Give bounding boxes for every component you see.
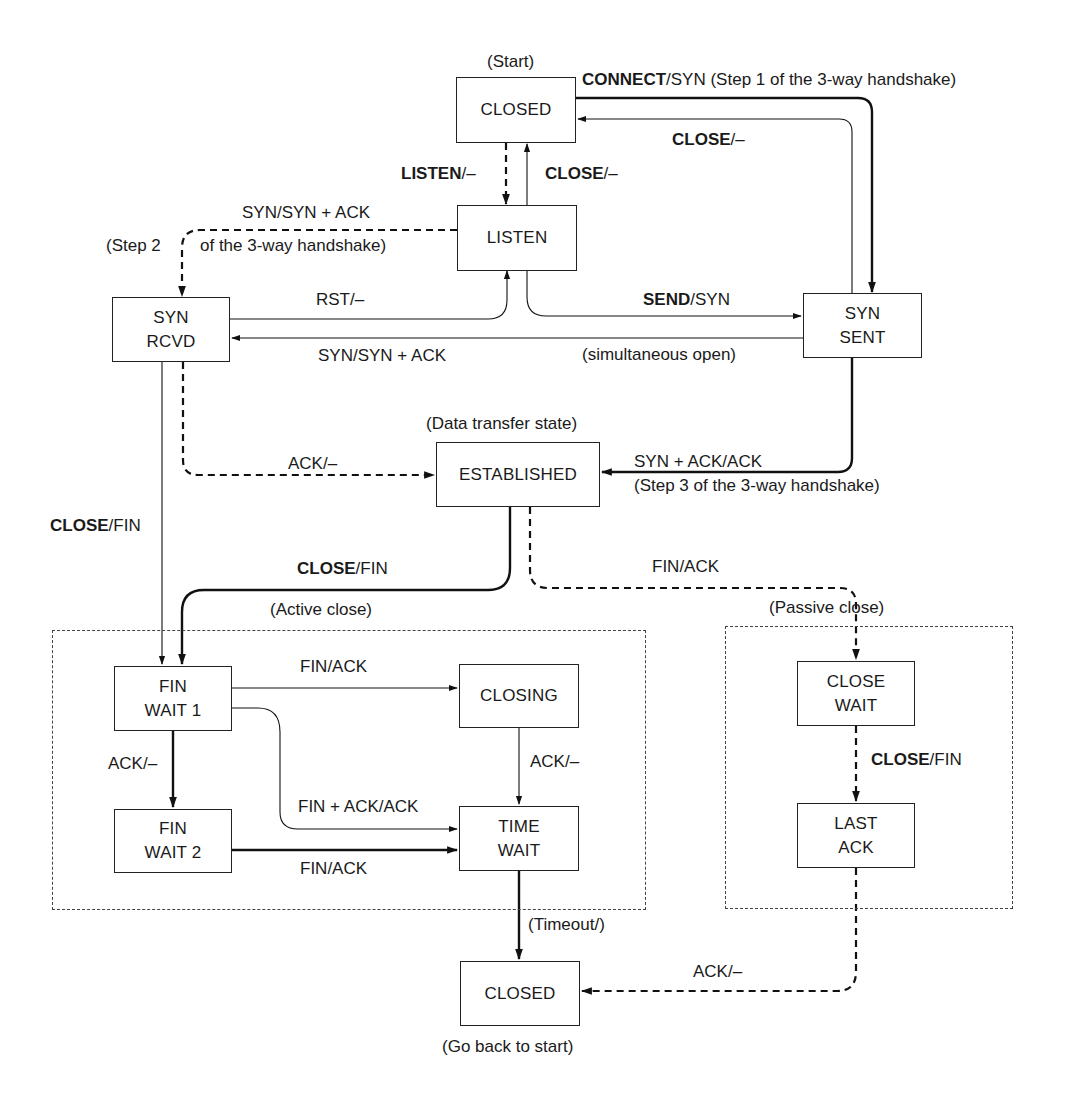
state-listen: LISTEN — [457, 205, 577, 271]
label-fw1-closing: FIN/ACK — [300, 657, 367, 677]
label-fin-ack-passive: FIN/ACK — [652, 557, 719, 577]
annotation-data-transfer: (Data transfer state) — [426, 414, 577, 434]
label-listen-close: CLOSE/– — [545, 164, 618, 184]
annotation-start: (Start) — [487, 52, 534, 72]
label-fw1-fw2: ACK/– — [108, 754, 157, 774]
label-closing-tw: ACK/– — [530, 752, 579, 772]
state-closed-start: CLOSED — [456, 77, 576, 143]
state-label-line1: TIME — [498, 815, 539, 839]
state-label-line1: FIN — [159, 675, 187, 699]
label-rst: RST/– — [316, 290, 364, 310]
state-label: CLOSED — [484, 982, 555, 1006]
label-synsent-close: CLOSE/– — [672, 130, 745, 150]
label-listen: LISTEN/– — [401, 164, 476, 184]
label-la-closed: ACK/– — [693, 962, 742, 982]
state-established: ESTABLISHED — [436, 442, 600, 507]
state-label-line2: RCVD — [147, 330, 196, 354]
arrow-rst — [230, 271, 507, 319]
state-fin-wait-2: FIN WAIT 2 — [114, 809, 232, 873]
annotation-go-back: (Go back to start) — [442, 1037, 573, 1057]
label-step2-b: of the 3-way handshake) — [200, 236, 386, 256]
state-label: CLOSED — [480, 98, 551, 122]
label-timeout: (Timeout/) — [528, 915, 605, 935]
state-label-line1: SYN — [153, 306, 189, 330]
label-step2-a: (Step 2 — [106, 236, 161, 256]
label-fw1-tw: FIN + ACK/ACK — [298, 797, 418, 817]
label-est-close: CLOSE/FIN — [297, 559, 388, 579]
state-label-line2: WAIT — [498, 839, 541, 863]
label-connect: CONNECT/SYN (Step 1 of the 3-way handsha… — [582, 70, 956, 90]
state-label-line2: WAIT 1 — [145, 699, 202, 723]
label-syn-synack: SYN/SYN + ACK — [242, 203, 370, 223]
state-closing: CLOSING — [459, 664, 579, 728]
state-label-line1: LAST — [834, 812, 877, 836]
state-syn-sent: SYN SENT — [803, 293, 922, 358]
state-label-line1: CLOSE — [827, 670, 886, 694]
annotation-active-close: (Active close) — [270, 600, 372, 620]
label-simul-syn: SYN/SYN + ACK — [318, 346, 446, 366]
label-simul-open: (simultaneous open) — [582, 345, 736, 365]
state-label-line2: WAIT 2 — [145, 841, 202, 865]
label-rcvd-close: CLOSE/FIN — [50, 516, 141, 536]
state-label-line2: WAIT — [835, 694, 878, 718]
annotation-passive-close: (Passive close) — [769, 598, 884, 618]
state-fin-wait-1: FIN WAIT 1 — [114, 666, 232, 731]
label-fw2-tw: FIN/ACK — [300, 859, 367, 879]
state-label: ESTABLISHED — [459, 463, 577, 487]
state-label-line2: SENT — [839, 326, 885, 350]
label-send: SEND/SYN — [643, 290, 730, 310]
state-syn-rcvd: SYN RCVD — [112, 297, 230, 362]
arrow-connect — [576, 98, 872, 292]
label-ack-est: ACK/– — [288, 454, 337, 474]
state-label-line1: FIN — [159, 817, 187, 841]
state-label-line1: SYN — [845, 302, 881, 326]
state-time-wait: TIME WAIT — [459, 806, 579, 871]
state-label: CLOSING — [480, 684, 558, 708]
label-cw-la: CLOSE/FIN — [871, 750, 962, 770]
state-closed-end: CLOSED — [460, 961, 580, 1026]
label-step3: (Step 3 of the 3-way handshake) — [634, 476, 880, 496]
state-label: LISTEN — [487, 226, 548, 250]
state-close-wait: CLOSE WAIT — [797, 661, 915, 726]
state-last-ack: LAST ACK — [797, 803, 915, 868]
state-label-line2: ACK — [838, 836, 874, 860]
label-synack-ack: SYN + ACK/ACK — [634, 452, 762, 472]
